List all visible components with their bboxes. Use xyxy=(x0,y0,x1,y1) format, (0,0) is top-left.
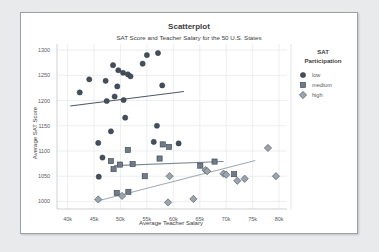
point-medium[interactable] xyxy=(232,172,237,177)
point-low[interactable] xyxy=(144,53,149,58)
data-points[interactable] xyxy=(77,50,279,206)
point-high[interactable] xyxy=(264,144,271,151)
point-medium[interactable] xyxy=(108,158,113,163)
chart-subtitle: SAT Score and Teacher Salary for the 50 … xyxy=(116,34,261,41)
x-tick-label: 45k xyxy=(90,216,99,222)
y-tick-label: 1200 xyxy=(38,98,50,104)
point-low[interactable] xyxy=(128,74,133,79)
point-medium[interactable] xyxy=(114,190,119,195)
point-low[interactable] xyxy=(100,155,105,160)
y-tick-label: 1250 xyxy=(38,72,50,78)
y-tick-label: 1000 xyxy=(38,198,50,204)
trend-line-low xyxy=(70,91,184,106)
point-high[interactable] xyxy=(164,199,171,206)
point-medium[interactable] xyxy=(142,174,147,179)
gridlines xyxy=(57,44,287,209)
point-medium[interactable] xyxy=(212,159,217,164)
point-low[interactable] xyxy=(140,61,145,66)
y-axis-ticks: 1000105011001150120012501300 xyxy=(38,47,50,204)
x-tick-label: 75k xyxy=(248,216,257,222)
point-medium[interactable] xyxy=(126,189,131,194)
point-low[interactable] xyxy=(160,83,165,88)
point-low[interactable] xyxy=(108,129,113,134)
point-low[interactable] xyxy=(77,90,82,95)
x-tick-label: 70k xyxy=(222,216,231,222)
legend-label-high[interactable]: high xyxy=(312,92,323,98)
point-high[interactable] xyxy=(234,177,241,184)
point-high[interactable] xyxy=(95,196,102,203)
legend-title-line1: SAT xyxy=(317,48,329,55)
point-low[interactable] xyxy=(103,78,108,83)
point-medium[interactable] xyxy=(117,162,122,167)
y-axis-label: Average SAT Score xyxy=(32,106,38,159)
x-tick-label: 50k xyxy=(116,216,125,222)
chart-card: 40k45k50k55k60k65k70k75k80k 100010501100… xyxy=(20,12,358,234)
legend-label-medium[interactable]: medium xyxy=(312,82,332,88)
chart-page: 40k45k50k55k60k65k70k75k80k 100010501100… xyxy=(0,0,379,252)
point-low[interactable] xyxy=(96,174,101,179)
y-tick-label: 1050 xyxy=(38,173,50,179)
legend[interactable]: SATParticipationlowmediumhigh xyxy=(291,44,342,209)
point-low[interactable] xyxy=(115,84,120,89)
legend-title-line2: Participation xyxy=(305,57,342,64)
point-high[interactable] xyxy=(166,173,173,180)
x-tick-label: 40k xyxy=(63,216,72,222)
point-high[interactable] xyxy=(272,173,279,180)
legend-marker-high[interactable] xyxy=(299,91,306,98)
point-medium[interactable] xyxy=(166,144,171,149)
legend-marker-medium[interactable] xyxy=(300,82,305,87)
point-low[interactable] xyxy=(120,70,125,75)
point-low[interactable] xyxy=(151,139,156,144)
point-medium[interactable] xyxy=(125,147,130,152)
scatterplot-svg: 40k45k50k55k60k65k70k75k80k 100010501100… xyxy=(21,13,357,233)
x-axis-label: Average Teacher Salary xyxy=(139,220,203,226)
legend-label-low[interactable]: low xyxy=(312,72,321,78)
point-low[interactable] xyxy=(110,63,115,68)
point-low[interactable] xyxy=(176,141,181,146)
point-low[interactable] xyxy=(123,115,128,120)
y-tick-label: 1300 xyxy=(38,47,50,53)
point-low[interactable] xyxy=(112,94,117,99)
chart-title: Scatterplot xyxy=(168,22,210,31)
point-low[interactable] xyxy=(121,97,126,102)
point-medium[interactable] xyxy=(198,163,203,168)
point-low[interactable] xyxy=(96,140,101,145)
point-medium[interactable] xyxy=(157,156,162,161)
point-medium[interactable] xyxy=(130,161,135,166)
point-low[interactable] xyxy=(155,50,160,55)
y-tick-label: 1150 xyxy=(38,123,50,129)
y-tick-label: 1100 xyxy=(38,148,50,154)
point-medium[interactable] xyxy=(160,142,165,147)
point-medium[interactable] xyxy=(111,167,116,172)
point-low[interactable] xyxy=(154,123,159,128)
x-tick-label: 80k xyxy=(275,216,284,222)
point-low[interactable] xyxy=(104,98,109,103)
point-low[interactable] xyxy=(116,68,121,73)
legend-marker-low[interactable] xyxy=(300,72,305,77)
point-low[interactable] xyxy=(87,77,92,82)
